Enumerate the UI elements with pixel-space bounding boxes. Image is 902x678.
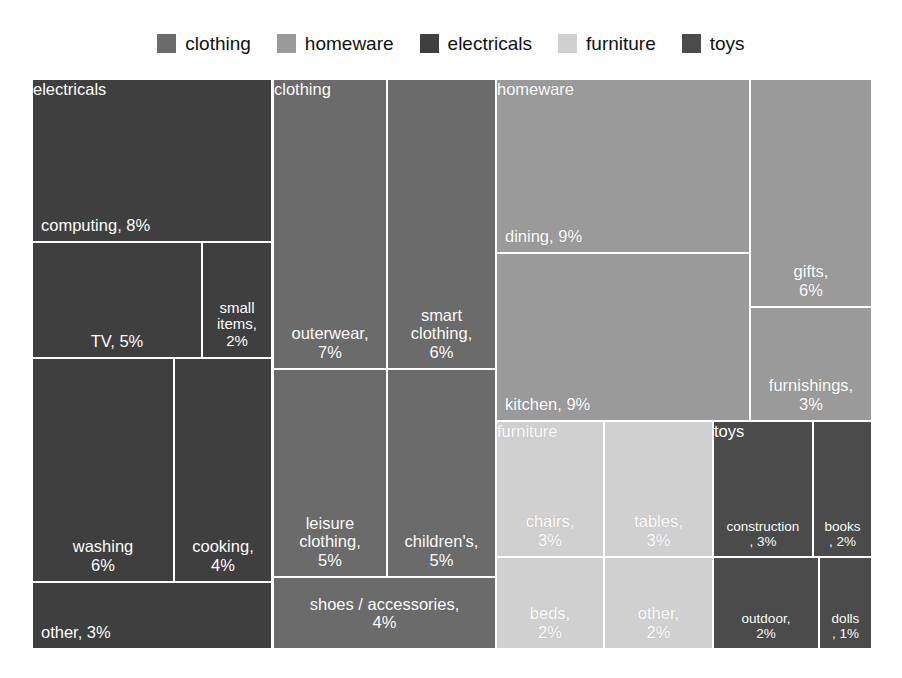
legend-swatch-electricals	[420, 34, 439, 53]
tile-label-tables: tables,3%	[605, 512, 712, 549]
tile-label-shoes-accessories: shoes / accessories,4%	[274, 595, 495, 632]
tile-label-chairs: chairs,3%	[497, 512, 603, 549]
treemap-tile-cooking[interactable]: cooking,4%	[175, 359, 271, 581]
treemap-tile-small-items[interactable]: small items,2%	[203, 243, 271, 357]
treemap-tile-washing[interactable]: washing6%	[33, 359, 173, 581]
tile-label-dining: dining, 9%	[505, 227, 582, 245]
tile-label-electricals-other: other, 3%	[41, 623, 111, 641]
group-label-homeware: homeware	[497, 80, 574, 98]
tile-label-beds: beds,2%	[497, 604, 603, 641]
tile-label-tv: TV, 5%	[33, 332, 201, 350]
legend-label-clothing: clothing	[185, 34, 251, 53]
treemap-tile-beds[interactable]: beds,2%	[497, 558, 603, 648]
treemap-tile-construction[interactable]: toys construction, 3%	[714, 422, 812, 556]
treemap-tile-tv[interactable]: TV, 5%	[33, 243, 201, 357]
treemap-tile-books[interactable]: books, 2%	[814, 422, 871, 556]
treemap-tile-computing[interactable]: electricals computing, 8%	[33, 80, 271, 241]
legend-label-electricals: electricals	[448, 34, 532, 53]
legend-label-homeware: homeware	[305, 34, 394, 53]
treemap-plot-area: electricals computing, 8% TV, 5% small i…	[33, 80, 871, 648]
tile-label-books: books, 2%	[814, 519, 871, 549]
treemap-tile-smart-clothing[interactable]: smartclothing,6%	[388, 80, 495, 368]
legend-label-furniture: furniture	[586, 34, 656, 53]
group-label-toys: toys	[714, 422, 744, 440]
treemap-tile-outdoor[interactable]: outdoor,2%	[714, 558, 818, 648]
treemap-tile-tables[interactable]: tables,3%	[605, 422, 712, 556]
legend-label-toys: toys	[710, 34, 745, 53]
tile-label-construction: construction, 3%	[714, 519, 812, 549]
legend-item-furniture[interactable]: furniture	[558, 34, 656, 53]
tile-label-outdoor: outdoor,2%	[714, 611, 818, 641]
treemap-tile-dining[interactable]: homeware dining, 9%	[497, 80, 749, 252]
treemap-tile-gifts[interactable]: gifts,6%	[751, 80, 871, 306]
treemap-chart: clothing homeware electricals furniture …	[0, 0, 902, 678]
tile-label-computing: computing, 8%	[41, 216, 150, 234]
treemap-tile-dolls[interactable]: dolls, 1%	[820, 558, 871, 648]
group-label-furniture: furniture	[497, 422, 558, 440]
legend-item-homeware[interactable]: homeware	[277, 34, 394, 53]
treemap-tile-chairs[interactable]: furniture chairs,3%	[497, 422, 603, 556]
legend-item-clothing[interactable]: clothing	[157, 34, 251, 53]
tile-label-dolls: dolls, 1%	[820, 611, 871, 641]
tile-label-cooking: cooking,4%	[175, 537, 271, 574]
treemap-tile-kitchen[interactable]: kitchen, 9%	[497, 254, 749, 420]
treemap-tile-leisure-clothing[interactable]: leisureclothing,5%	[274, 370, 386, 576]
tile-label-furniture-other: other,2%	[605, 604, 712, 641]
treemap-tile-electricals-other[interactable]: other, 3%	[33, 583, 271, 648]
tile-label-childrens: children's,5%	[388, 532, 495, 569]
legend-swatch-homeware	[277, 34, 296, 53]
treemap-tile-furniture-other[interactable]: other,2%	[605, 558, 712, 648]
treemap-tile-shoes-accessories[interactable]: shoes / accessories,4%	[274, 578, 495, 648]
legend-item-toys[interactable]: toys	[682, 34, 745, 53]
legend-swatch-clothing	[157, 34, 176, 53]
treemap-tile-childrens[interactable]: children's,5%	[388, 370, 495, 576]
tile-label-kitchen: kitchen, 9%	[505, 395, 590, 413]
legend-swatch-furniture	[558, 34, 577, 53]
tile-label-smart-clothing: smartclothing,6%	[388, 306, 495, 361]
tile-label-leisure-clothing: leisureclothing,5%	[274, 514, 386, 569]
chart-legend: clothing homeware electricals furniture …	[0, 28, 902, 58]
treemap-tile-furnishings[interactable]: furnishings,3%	[751, 308, 871, 420]
group-label-clothing: clothing	[274, 80, 331, 98]
group-label-electricals: electricals	[33, 80, 106, 98]
treemap-tile-outerwear[interactable]: clothing outerwear,7%	[274, 80, 386, 368]
tile-label-furnishings: furnishings,3%	[751, 376, 871, 413]
tile-label-gifts: gifts,6%	[751, 262, 871, 299]
legend-item-electricals[interactable]: electricals	[420, 34, 532, 53]
legend-swatch-toys	[682, 34, 701, 53]
tile-label-washing: washing6%	[33, 537, 173, 574]
tile-label-small-items: small items,2%	[203, 300, 271, 350]
tile-label-outerwear: outerwear,7%	[274, 324, 386, 361]
